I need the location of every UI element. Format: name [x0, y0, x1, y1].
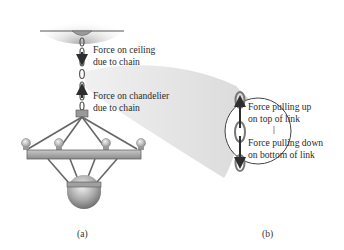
caption-b: (b) [262, 229, 273, 239]
label-force-down-1: Force pulling down [248, 137, 323, 148]
label-force-on-chandelier-2: due to chain [93, 102, 140, 113]
label-force-on-chandelier-1: Force on chandelier [93, 90, 169, 101]
label-force-on-ceiling-1: Force on ceiling [93, 44, 155, 55]
caption-a: (a) [77, 229, 88, 239]
label-force-on-ceiling-2: due to chain [93, 56, 140, 67]
chandelier [22, 110, 146, 209]
label-force-down-2: on bottom of link [248, 149, 315, 160]
chain [80, 38, 85, 110]
chandelier-diagram [0, 0, 344, 250]
label-force-up-2: on top of link [248, 113, 300, 124]
magnification-beam [84, 65, 250, 178]
label-force-up-1: Force pulling up [248, 101, 311, 112]
